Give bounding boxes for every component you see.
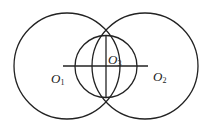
circles-diagram: O1O2O3 — [0, 0, 211, 125]
label-o3: O3 — [108, 52, 121, 68]
label-o2: O2 — [153, 69, 166, 85]
label-o1: O1 — [51, 71, 64, 87]
